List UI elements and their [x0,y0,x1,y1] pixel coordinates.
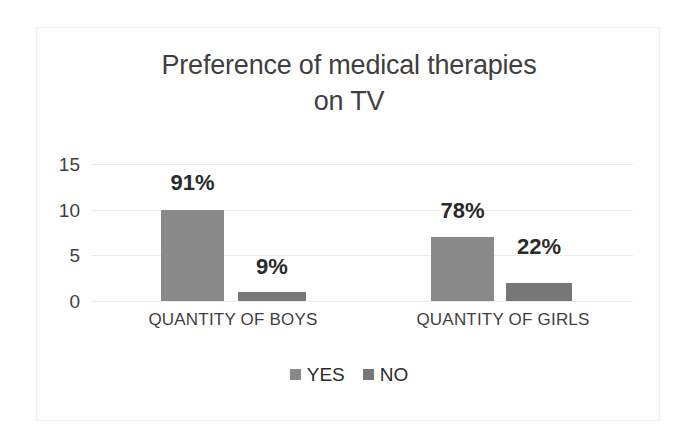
gridline-15: 15 [91,164,633,165]
gridline-0: 0 [91,301,633,302]
chart-title-line-1: Preference of medical therapies [37,47,661,83]
legend-label-no: NO [380,365,409,384]
y-axis-tick-15: 15 [59,155,80,174]
y-axis-tick-10: 10 [59,200,80,219]
x-axis-category-boys: QUANTITY OF BOYS [148,311,317,329]
bar-girls-no[interactable] [506,283,572,301]
legend-item-no[interactable]: NO [363,365,409,384]
legend-item-yes[interactable]: YES [290,365,345,384]
chart-title-line-2: on TV [37,83,661,119]
bar-label-girls-no: 22% [517,236,561,258]
y-axis-tick-5: 5 [69,246,80,265]
y-axis-tick-0: 0 [69,292,80,311]
legend-label-yes: YES [307,365,345,384]
chart-title: Preference of medical therapies on TV [37,47,661,119]
bar-girls-yes[interactable] [431,237,494,301]
legend-swatch-yes-icon [290,369,301,380]
bar-label-girls-yes: 78% [440,200,484,222]
bar-boys-no[interactable] [238,292,306,301]
chart-legend: YES NO [37,365,661,384]
bar-label-boys-no: 9% [256,256,288,278]
plot-area: 15 10 5 0 91% 9% QUANTITY OF BOYS 78% 22… [91,164,633,301]
chart-frame: Preference of medical therapies on TV 15… [36,27,660,421]
bar-boys-yes[interactable] [161,210,224,301]
bar-label-boys-yes: 91% [170,172,214,194]
legend-swatch-no-icon [363,369,374,380]
x-axis-category-girls: QUANTITY OF GIRLS [416,311,589,329]
